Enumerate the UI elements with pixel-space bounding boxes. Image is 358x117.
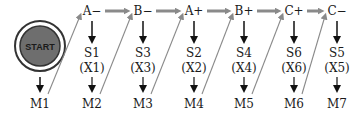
step-2: B−S3(X3)M3: [130, 4, 178, 111]
action-label: C+: [284, 4, 303, 18]
memory-label: M4: [184, 97, 204, 111]
memory-label: M5: [234, 97, 254, 111]
action-label: B+: [235, 4, 254, 18]
output-label: (X4): [231, 61, 257, 75]
state-label: S6: [286, 46, 302, 60]
step-4: B+S4(X4)M5: [231, 4, 278, 111]
output-label: (X6): [281, 61, 307, 75]
memory-to-action-arrow: [302, 16, 325, 94]
start-label: START: [25, 42, 55, 52]
state-label: S1: [84, 46, 100, 60]
memory-label: M3: [133, 97, 153, 111]
step-6: C−S5(X5)M7: [324, 4, 350, 111]
start-node: START: [15, 21, 65, 71]
memory-label-m1: M1: [30, 97, 50, 111]
state-label: S2: [186, 46, 202, 60]
memory-to-action-arrow: [151, 16, 182, 94]
memory-label: M2: [82, 97, 102, 111]
step-1: A−S1(X1)M2: [79, 4, 127, 111]
output-label: (X2): [181, 61, 207, 75]
output-label: (X3): [130, 61, 156, 75]
action-label: C−: [327, 4, 346, 18]
output-label: (X5): [324, 61, 350, 75]
memory-label: M7: [327, 97, 347, 111]
action-label: B−: [134, 4, 153, 18]
memory-to-action-arrow: [100, 16, 131, 94]
step-5: C+S6(X6)M6: [281, 4, 321, 111]
state-label: S4: [236, 46, 252, 60]
state-label: S5: [329, 46, 345, 60]
memory-to-action-arrow: [202, 16, 232, 94]
sequence-diagram: START M1 A−S1(X1)M2B−S3(X3)M3A+S2(X2)M4B…: [0, 0, 358, 117]
step-3: A+S2(X2)M4: [181, 4, 228, 111]
memory-to-action-arrow: [252, 16, 282, 94]
output-label: (X1): [79, 61, 105, 75]
memory-label: M6: [284, 97, 304, 111]
action-label: A+: [184, 4, 204, 18]
state-label: S3: [135, 46, 151, 60]
action-label: A−: [82, 4, 102, 18]
